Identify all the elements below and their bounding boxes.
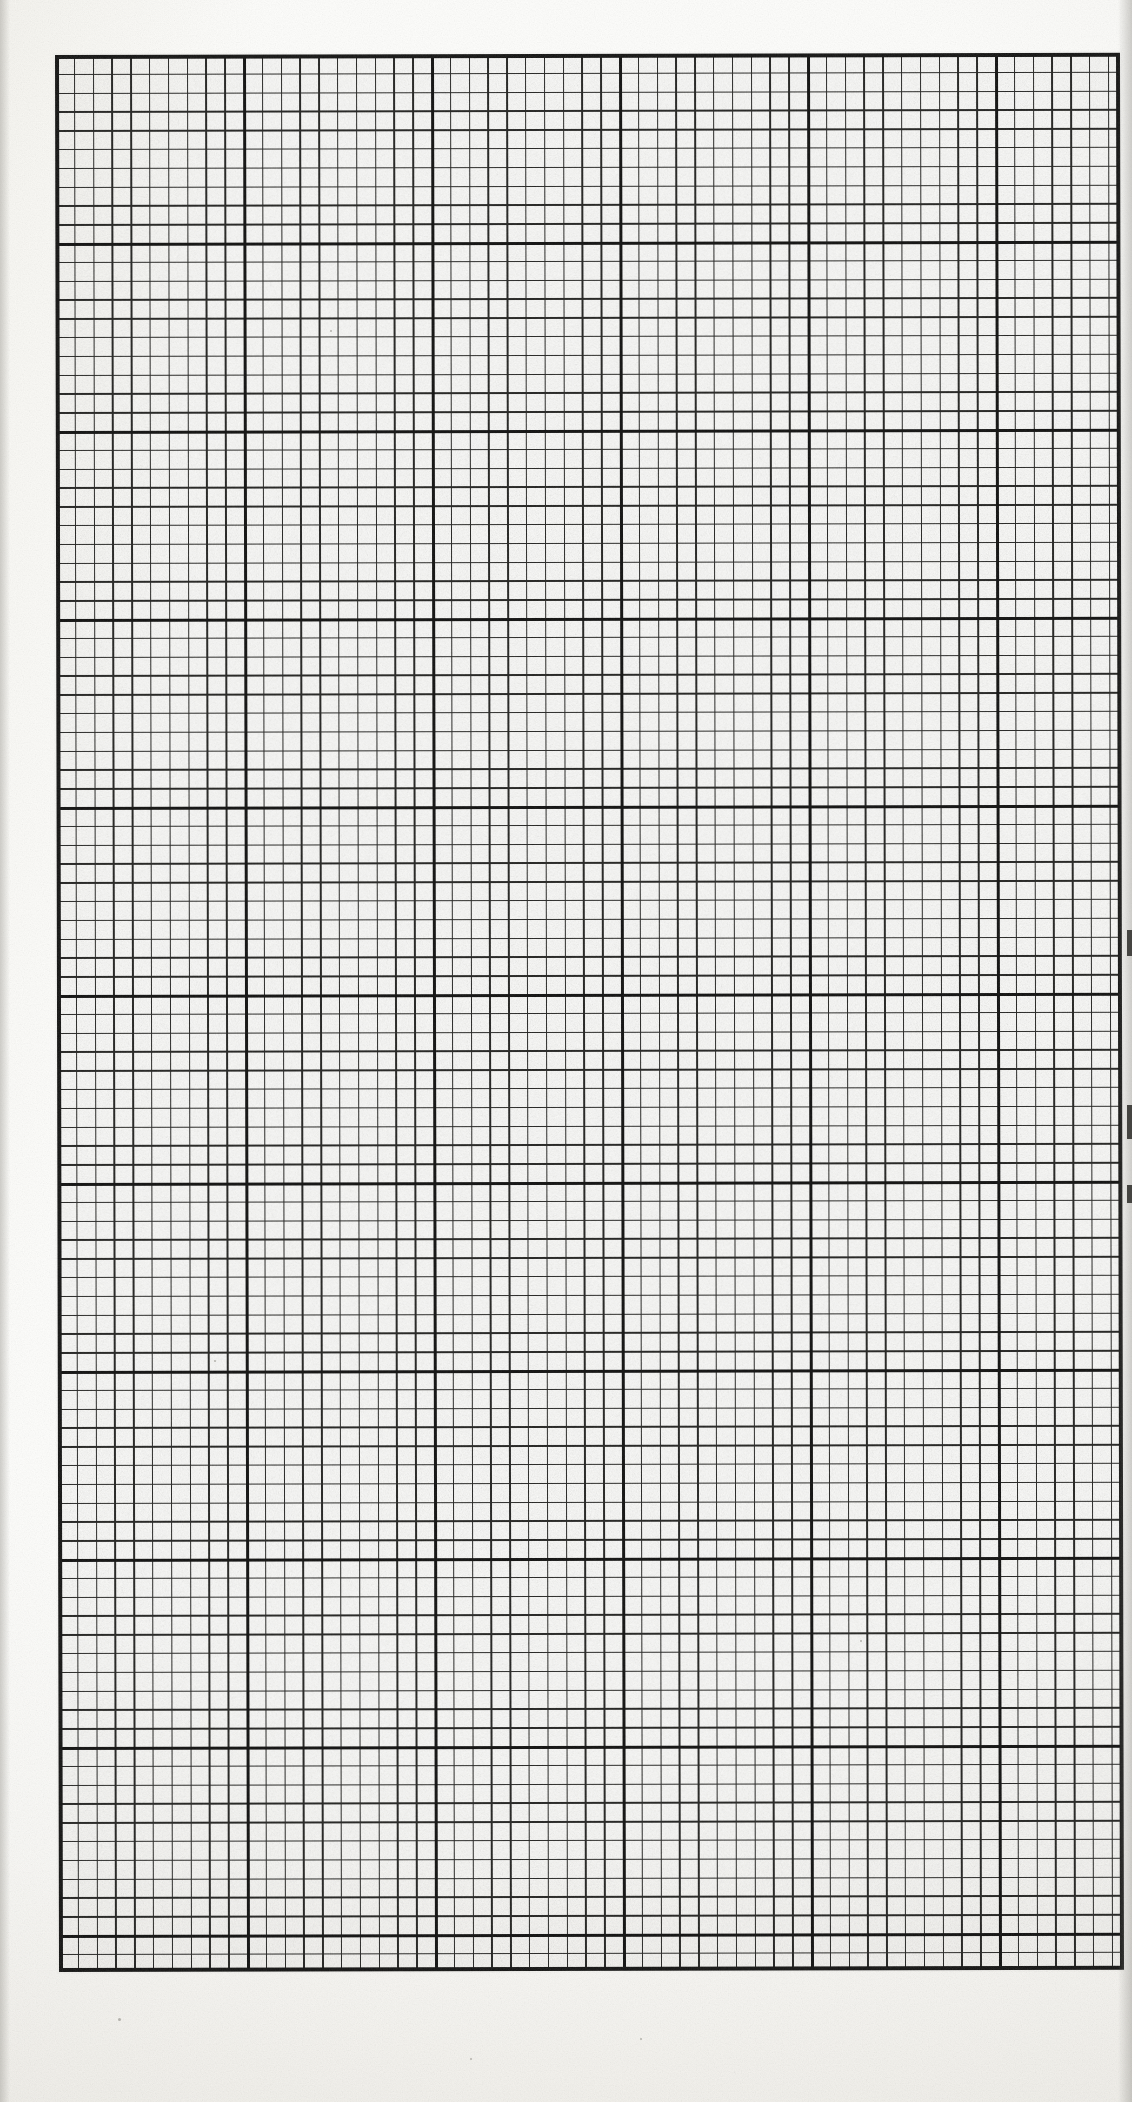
- paper-speck: [640, 2038, 642, 2040]
- page-caption: Blank sheet of engineering graph paper (…: [0, 0, 1, 1]
- paper-speck: [470, 2058, 472, 2060]
- scan-edge-nick: [1127, 930, 1132, 956]
- scanned-page: Blank sheet of engineering graph paper (…: [0, 0, 1132, 2102]
- graph-paper-grid: [55, 53, 1124, 1972]
- scan-edge-nick: [1127, 1105, 1132, 1139]
- grid-outer-border: [55, 53, 1124, 1972]
- paper-speck: [118, 2018, 121, 2021]
- scan-edge-nick: [1127, 1185, 1132, 1203]
- scan-edge-shadow-left: [0, 0, 10, 2102]
